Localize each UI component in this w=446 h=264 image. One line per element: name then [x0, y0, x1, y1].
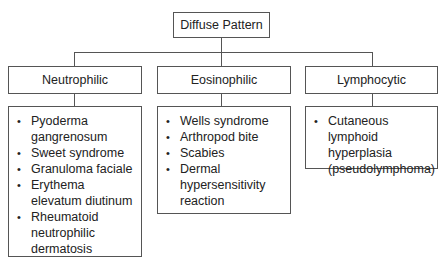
- connector-root-down: [221, 38, 222, 52]
- connector-neutrophilic-list: [74, 94, 75, 106]
- category-neutrophilic: Neutrophilic: [8, 66, 142, 94]
- list-item: Pyoderma gangrenosum: [31, 113, 135, 145]
- list-item: Rheumatoid neutrophilic dermatosis: [31, 209, 135, 257]
- connector-to-eosinophilic: [221, 52, 222, 66]
- list-item: Cutaneous lymphoid hyperplasia (pseudoly…: [328, 113, 431, 177]
- category-lymphocytic: Lymphocytic: [305, 66, 438, 94]
- root-node-diffuse-pattern: Diffuse Pattern: [173, 12, 270, 38]
- list-eosinophilic: Wells syndrome Arthropod bite Scabies De…: [157, 106, 291, 214]
- root-node-label: Diffuse Pattern: [180, 18, 262, 32]
- connector-eosinophilic-list: [221, 94, 222, 106]
- list-item: Erythema elevatum diutinum: [31, 177, 135, 209]
- category-label: Eosinophilic: [191, 73, 258, 87]
- list-item: Arthropod bite: [180, 129, 284, 145]
- list-item: Granuloma faciale: [31, 161, 135, 177]
- connector-lymphocytic-list: [372, 94, 373, 106]
- category-label: Neutrophilic: [42, 73, 108, 87]
- category-label: Lymphocytic: [337, 73, 406, 87]
- list-item: Dermal hypersensitivity reaction: [180, 161, 284, 209]
- connector-to-neutrophilic: [74, 52, 75, 66]
- list-item: Sweet syndrome: [31, 145, 135, 161]
- connector-horizontal: [74, 52, 373, 53]
- list-neutrophilic: Pyoderma gangrenosum Sweet syndrome Gran…: [8, 106, 142, 257]
- list-item: Scabies: [180, 145, 284, 161]
- connector-to-lymphocytic: [372, 52, 373, 66]
- category-eosinophilic: Eosinophilic: [157, 66, 291, 94]
- list-lymphocytic: Cutaneous lymphoid hyperplasia (pseudoly…: [305, 106, 438, 169]
- list-item: Wells syndrome: [180, 113, 284, 129]
